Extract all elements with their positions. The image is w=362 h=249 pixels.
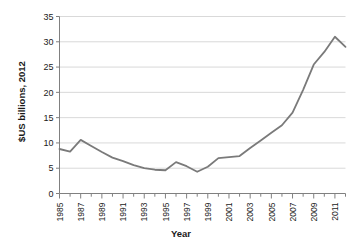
svg-text:1995: 1995: [161, 202, 171, 221]
plot-area: 05101520253035 1985198719891991199319951…: [0, 0, 362, 249]
svg-text:2007: 2007: [288, 202, 298, 221]
svg-text:30: 30: [43, 37, 53, 47]
svg-text:25: 25: [43, 62, 53, 72]
svg-text:15: 15: [43, 113, 53, 123]
y-axis-ticks: [56, 17, 60, 194]
svg-text:35: 35: [43, 12, 53, 22]
x-axis-tick-labels: 1985198719891991199319951997199920012003…: [55, 202, 340, 221]
svg-text:1997: 1997: [182, 202, 192, 221]
y-axis-tick-labels: 05101520253035: [43, 12, 53, 199]
svg-text:1985: 1985: [55, 202, 65, 221]
svg-text:0: 0: [48, 189, 53, 199]
svg-text:1999: 1999: [203, 202, 213, 221]
svg-text:5: 5: [48, 163, 53, 173]
svg-text:1993: 1993: [139, 202, 149, 221]
svg-text:2011: 2011: [330, 202, 340, 221]
data-series-line: [60, 37, 346, 172]
svg-text:2001: 2001: [224, 202, 234, 221]
line-chart: $US billions, 2012 05101520253035 198519…: [0, 0, 362, 249]
axis-lines: [60, 17, 346, 194]
x-axis-ticks: [60, 194, 346, 199]
svg-text:1991: 1991: [118, 202, 128, 221]
svg-text:1989: 1989: [97, 202, 107, 221]
svg-text:2009: 2009: [309, 202, 319, 221]
svg-text:10: 10: [43, 138, 53, 148]
x-axis-title: Year: [0, 228, 362, 239]
svg-text:2003: 2003: [245, 202, 255, 221]
svg-text:20: 20: [43, 88, 53, 98]
svg-text:1987: 1987: [76, 202, 86, 221]
svg-text:2005: 2005: [267, 202, 277, 221]
